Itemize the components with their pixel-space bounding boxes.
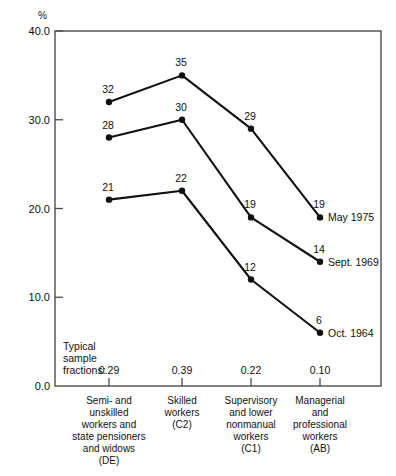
y-tick-label-20: 20.0 <box>29 203 50 215</box>
category-label-line: and widows <box>83 443 135 454</box>
x-axis-category-label-0: Semi- andunskilledworkers andstate pensi… <box>72 395 145 466</box>
y-tick-label-40: 40.0 <box>29 25 50 37</box>
data-point-label: 21 <box>102 181 114 193</box>
x-axis-category-label-1: Skilledworkers(C2) <box>163 395 199 430</box>
y-tick-label-30: 30.0 <box>29 114 50 126</box>
line-chart: % 40.0 30.0 20.0 10.0 0.0 32352919283019… <box>0 0 396 476</box>
category-label-line: workers <box>301 431 337 442</box>
category-label-line: Semi- and <box>86 395 132 406</box>
category-label-line: nonmanual <box>226 419 275 430</box>
data-point-marker <box>179 117 185 123</box>
sample-fraction-value-0: 0.29 <box>99 364 120 376</box>
data-point-label: 19 <box>244 198 256 210</box>
data-point-label: 29 <box>244 110 256 122</box>
sample-fraction-value-3: 0.10 <box>310 364 331 376</box>
y-axis-unit-label: % <box>38 10 47 21</box>
x-axis-category-label-2: Supervisoryand lowernonmanualworkers(C1) <box>225 395 278 454</box>
data-point-marker <box>317 330 323 336</box>
category-label-line: Supervisory <box>225 395 278 406</box>
sample-fraction-caption-line-0: Typical <box>63 340 96 352</box>
series-line-1 <box>109 120 320 262</box>
category-label-line: unskilled <box>90 407 129 418</box>
chart-figure: % 40.0 30.0 20.0 10.0 0.0 32352919283019… <box>0 0 396 476</box>
category-label-line: state pensioners <box>72 431 145 442</box>
category-label-line: workers <box>163 407 199 418</box>
series-end-label-2: Oct. 1964 <box>328 327 374 339</box>
y-axis-ticks: 40.0 30.0 20.0 10.0 0.0 <box>29 25 63 392</box>
data-point-marker <box>179 188 185 194</box>
series-end-label-1: Sept. 1969 <box>328 256 379 268</box>
series-layer: 32352919283019142122126 <box>102 56 325 336</box>
data-point-label: 28 <box>102 119 114 131</box>
data-point-marker <box>248 276 254 282</box>
series-label-layer: May 1975Sept. 1969Oct. 1964 <box>328 211 379 338</box>
data-point-marker <box>317 259 323 265</box>
data-point-marker <box>106 99 112 105</box>
data-point-label: 35 <box>175 56 187 68</box>
series-line-2 <box>109 191 320 333</box>
sample-fraction-value-2: 0.22 <box>241 364 262 376</box>
category-label-line: (AB) <box>310 443 330 454</box>
data-point-marker <box>179 72 185 78</box>
category-label-line: Managerial <box>295 395 344 406</box>
category-label-line: (C1) <box>241 443 260 454</box>
data-point-marker <box>248 214 254 220</box>
category-label-line: professional <box>293 419 347 430</box>
series-end-label-0: May 1975 <box>328 211 374 223</box>
series-1: 28301914 <box>102 101 325 265</box>
data-point-label: 30 <box>175 101 187 113</box>
x-axis-ticks <box>109 378 320 386</box>
category-label-line: and <box>312 407 329 418</box>
category-label-line: workers and <box>81 419 136 430</box>
category-label-line: workers <box>232 431 268 442</box>
category-label-line: Skilled <box>167 395 196 406</box>
y-tick-label-0: 0.0 <box>35 380 50 392</box>
data-point-marker <box>317 214 323 220</box>
data-point-marker <box>106 134 112 140</box>
data-point-label: 32 <box>102 83 114 95</box>
category-label-line: (DE) <box>99 455 120 466</box>
series-2: 2122126 <box>102 172 323 336</box>
x-axis-category-label-3: Managerialandprofessionalworkers(AB) <box>293 395 347 454</box>
category-label-line: and lower <box>229 407 273 418</box>
data-point-marker <box>248 125 254 131</box>
sample-fraction-annotation: Typical sample fractions: 0.29 0.39 0.22… <box>63 340 330 376</box>
category-label-line: (C2) <box>172 419 191 430</box>
data-point-label: 14 <box>313 243 325 255</box>
sample-fraction-caption-line-1: sample <box>63 352 97 364</box>
data-point-marker <box>106 196 112 202</box>
data-point-label: 22 <box>175 172 187 184</box>
data-point-label: 12 <box>244 261 256 273</box>
y-tick-label-10: 10.0 <box>29 291 50 303</box>
data-point-label: 19 <box>313 198 325 210</box>
data-point-label: 6 <box>316 314 322 326</box>
sample-fraction-value-1: 0.39 <box>172 364 193 376</box>
category-label-layer: Semi- andunskilledworkers andstate pensi… <box>72 395 347 466</box>
